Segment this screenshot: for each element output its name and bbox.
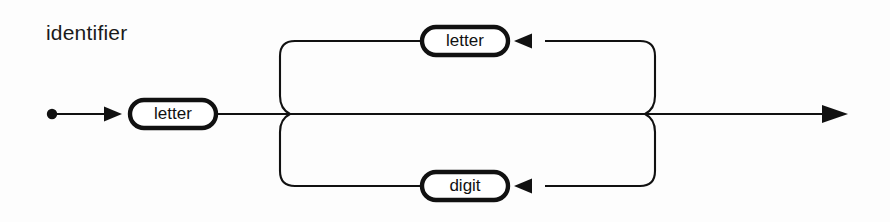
loop-digit-label: digit — [449, 176, 480, 195]
upper-loop-left-rail — [280, 41, 420, 114]
lower-loop-arrow-icon — [514, 179, 532, 194]
loop-letter-label: letter — [446, 31, 484, 50]
entry-arrow-icon — [104, 107, 122, 122]
lower-loop-left-rail — [280, 114, 420, 186]
exit-arrow-icon — [822, 105, 848, 123]
syntax-diagram-canvas: identifier letter letter digit — [0, 0, 890, 222]
upper-loop-right-rail — [545, 41, 655, 114]
upper-loop-arrow-icon — [514, 34, 532, 49]
railroad-diagram: letter letter digit — [0, 0, 890, 222]
lower-loop-right-rail — [545, 114, 655, 186]
start-dot — [47, 109, 57, 119]
main-letter-label: letter — [154, 104, 192, 123]
